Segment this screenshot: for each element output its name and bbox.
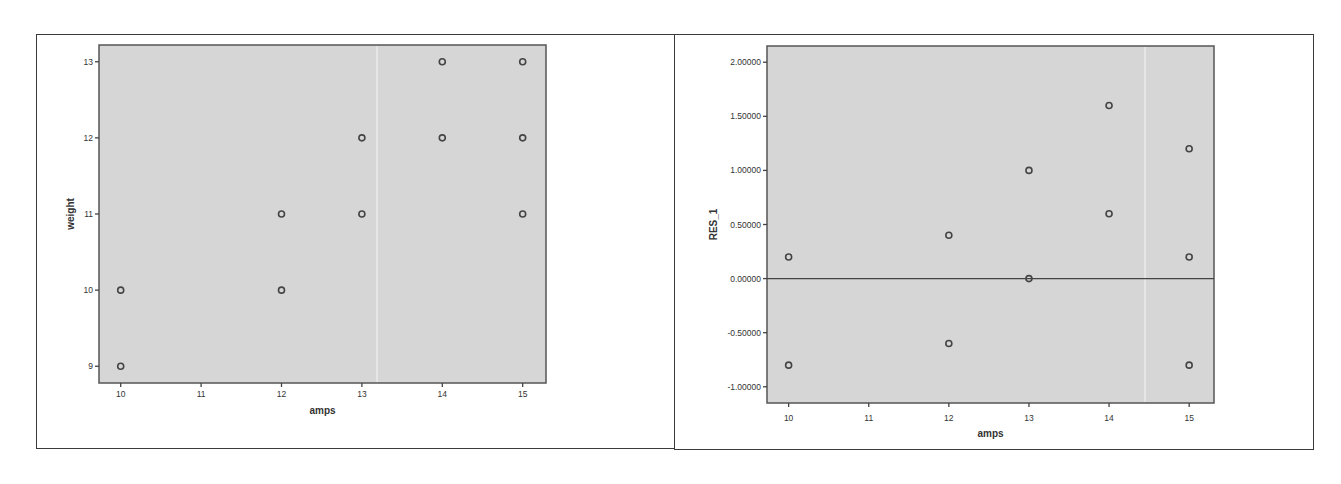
- x-tick-label: 11: [864, 413, 873, 423]
- scatter-plot-weight: 101112131415910111213ampsweight: [37, 35, 677, 450]
- y-tick-label: 1.50000: [730, 111, 761, 121]
- plot-artifact-stripe: [1144, 47, 1146, 402]
- x-tick-label: 10: [784, 413, 794, 423]
- y-tick-label: 11: [84, 209, 93, 219]
- x-tick-label: 14: [1104, 413, 1114, 423]
- y-axis-title: RES_1: [708, 208, 719, 240]
- y-tick-label: 9: [88, 361, 93, 371]
- chart-panel-residuals-vs-amps: 1011121314152.000001.500001.000000.50000…: [674, 34, 1314, 450]
- y-tick-label: 12: [84, 133, 94, 143]
- y-tick-label: 0.50000: [730, 220, 761, 230]
- scatter-plot-residuals: 1011121314152.000001.500001.000000.50000…: [675, 35, 1315, 451]
- y-axis-title: weight: [65, 198, 76, 231]
- y-tick-label: 10: [84, 285, 94, 295]
- x-tick-label: 11: [197, 389, 206, 399]
- chart-panel-weight-vs-amps: 101112131415910111213ampsweight: [36, 34, 676, 449]
- y-tick-label: 13: [84, 57, 94, 67]
- y-tick-label: -0.50000: [727, 328, 761, 338]
- plot-artifact-stripe: [376, 46, 378, 382]
- plot-area: [767, 46, 1214, 403]
- y-tick-label: 2.00000: [730, 57, 761, 67]
- x-tick-label: 10: [116, 389, 126, 399]
- x-tick-label: 13: [1024, 413, 1034, 423]
- x-tick-label: 15: [1184, 413, 1194, 423]
- y-tick-label: 1.00000: [730, 165, 761, 175]
- x-axis-title: amps: [309, 405, 336, 416]
- x-tick-label: 14: [438, 389, 448, 399]
- x-tick-label: 12: [944, 413, 954, 423]
- plot-area: [99, 45, 546, 383]
- x-tick-label: 12: [277, 389, 287, 399]
- y-tick-label: -1.00000: [727, 382, 761, 392]
- x-tick-label: 15: [518, 389, 528, 399]
- x-axis-title: amps: [977, 428, 1004, 439]
- x-tick-label: 13: [357, 389, 367, 399]
- y-tick-label: 0.00000: [730, 274, 761, 284]
